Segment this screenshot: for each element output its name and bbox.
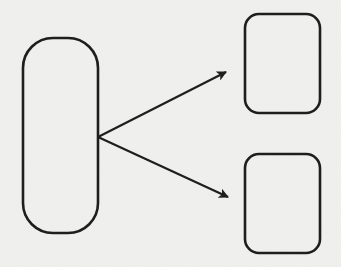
paper-texture [0,0,341,267]
diagram-canvas [0,0,341,267]
